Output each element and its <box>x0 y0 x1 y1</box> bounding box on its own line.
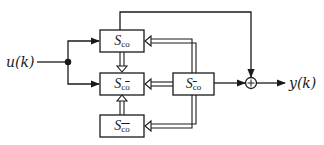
subscript-co: co <box>121 39 130 49</box>
subscript-cbar-obar: co <box>121 124 130 134</box>
block-label-s-cbar-o: Sco <box>173 77 214 92</box>
kalman-decomposition-diagram <box>0 0 324 145</box>
input-label: u(k) <box>6 55 34 69</box>
double-arrow-s-cbar-obar-to-s-c-obar <box>117 95 127 115</box>
block-label-s-c-obar: Sco <box>100 77 144 92</box>
input-to-s-c-obar <box>68 62 99 84</box>
block-label-s-co: Sco <box>100 34 144 49</box>
output-label: y(k) <box>289 76 316 90</box>
block-label-s-cbar-obar: Sco <box>100 119 144 134</box>
subscript-c-obar: co <box>121 82 130 92</box>
double-arrow-s-co-to-s-c-obar <box>117 52 127 72</box>
input-to-s-co <box>68 41 99 62</box>
double-arrow-s-cbar-o-to-s-cbar-obar <box>145 95 196 131</box>
double-arrow-s-cbar-o-to-s-c-obar <box>145 79 173 89</box>
subscript-cbar-o: co <box>193 82 202 92</box>
double-arrow-s-cbar-o-to-s-co <box>145 36 196 73</box>
